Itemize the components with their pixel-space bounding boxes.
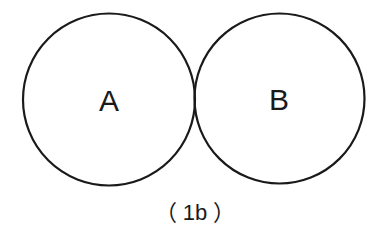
circle-a-label: A (99, 84, 119, 117)
tangent-circles-diagram: A B （ 1b ） (0, 0, 372, 227)
figure-caption: （ 1b ） (155, 200, 236, 225)
circle-b-label: B (269, 83, 289, 116)
